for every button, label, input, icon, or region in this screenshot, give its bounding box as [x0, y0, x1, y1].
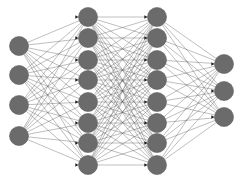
hidden-1-neuron-3: [79, 51, 98, 70]
connection-edge: [166, 120, 215, 139]
input-neuron-1: [10, 37, 29, 56]
connection-edge: [26, 23, 80, 69]
connection-edge: [28, 21, 79, 43]
output-neuron-3: [215, 108, 234, 127]
hidden-2-neuron-6: [148, 114, 167, 133]
arrowhead-icon: [144, 100, 147, 104]
connection-edge: [163, 71, 218, 136]
arrowhead-icon: [211, 62, 214, 66]
connection-edges: [24, 17, 219, 165]
hidden-1-neuron-4: [79, 71, 98, 90]
arrowhead-icon: [75, 58, 78, 62]
connection-edge: [25, 54, 83, 136]
connection-edge: [163, 45, 218, 110]
arrowhead-icon: [211, 89, 214, 93]
hidden-1-neuron-1: [79, 8, 98, 27]
output-neuron-1: [215, 55, 234, 74]
connection-edge: [165, 97, 217, 137]
connection-edge: [166, 61, 214, 64]
hidden-1-neuron-8: [79, 156, 98, 175]
connection-edge: [164, 44, 216, 85]
hidden-2-neuron-1: [148, 8, 167, 27]
arrowhead-icon: [144, 121, 147, 125]
input-neuron-4: [10, 127, 29, 146]
connection-edge: [166, 66, 215, 78]
hidden-2-neuron-7: [148, 134, 167, 153]
connection-edge: [28, 125, 78, 134]
arrowhead-icon: [144, 163, 147, 167]
connection-edge: [166, 64, 216, 87]
arrowhead-icon: [75, 121, 78, 125]
connection-edge: [27, 80, 80, 117]
input-neuron-2: [10, 66, 29, 85]
hidden-2-neuron-5: [148, 93, 167, 112]
neural-network-diagram: [0, 0, 241, 184]
hidden-1-neuron-7: [79, 134, 98, 153]
connection-edge: [24, 25, 83, 128]
connection-edge: [28, 137, 78, 142]
connection-edge: [162, 72, 219, 157]
arrowhead-icon: [144, 78, 147, 82]
arrowhead-icon: [75, 163, 78, 167]
hidden-2-neuron-8: [148, 156, 167, 175]
hidden-2-neuron-2: [148, 29, 167, 48]
arrowhead-icon: [144, 36, 147, 40]
arrowhead-icon: [211, 115, 214, 119]
arrowhead-icon: [75, 100, 78, 104]
hidden-2-neuron-3: [148, 51, 167, 70]
connection-edge: [28, 39, 78, 45]
connection-edge: [25, 24, 82, 97]
arrowhead-icon: [144, 15, 147, 19]
connection-edge: [26, 111, 81, 159]
output-neuron-2: [215, 82, 234, 101]
input-neuron-3: [10, 96, 29, 115]
hidden-1-neuron-6: [79, 114, 98, 133]
arrowhead-icon: [75, 15, 78, 19]
neuron-nodes: [10, 8, 234, 175]
connection-edge: [26, 52, 80, 96]
hidden-2-neuron-4: [148, 71, 167, 90]
hidden-1-neuron-2: [79, 29, 98, 48]
hidden-1-neuron-5: [79, 93, 98, 112]
arrowhead-icon: [75, 78, 78, 82]
connection-edge: [166, 118, 214, 122]
